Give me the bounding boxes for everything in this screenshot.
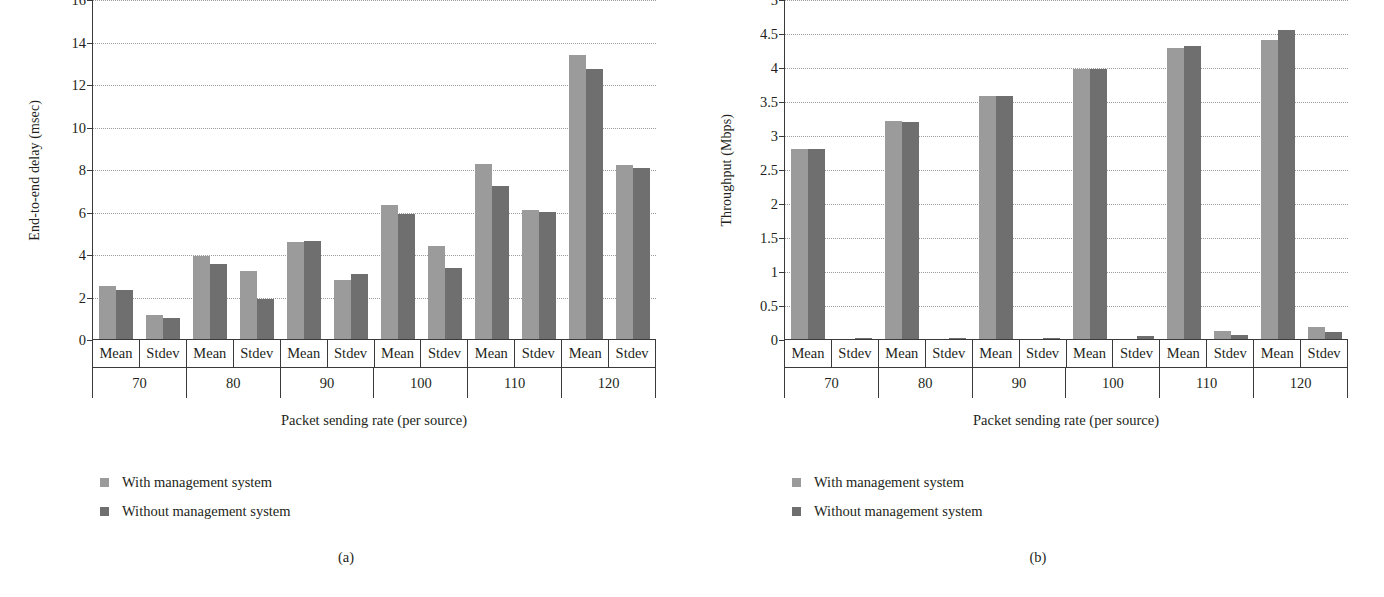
bar-group xyxy=(1254,0,1348,339)
y-tick-label: 2 xyxy=(771,196,778,213)
bar-subgroup xyxy=(421,0,468,339)
x-subcategory-label: Stdev xyxy=(234,340,281,367)
bar-subgroup xyxy=(1066,0,1113,339)
plot-area-a xyxy=(92,0,656,340)
x-group-label: 70 xyxy=(92,368,187,398)
x-subcategory-label: Mean xyxy=(973,340,1020,367)
bar-subgroup xyxy=(785,0,832,339)
x-subcategory-label: Mean xyxy=(187,340,234,367)
panel-b: Throughput (Mbps) 00.511.522.533.544.55 … xyxy=(692,0,1384,597)
bar-group xyxy=(187,0,281,339)
x-subcategory-label: Stdev xyxy=(421,340,468,367)
bar xyxy=(633,168,650,339)
bar xyxy=(163,318,180,339)
bar xyxy=(586,69,603,339)
x-group-label: 100 xyxy=(1066,368,1160,398)
bar xyxy=(381,205,398,339)
bar xyxy=(539,212,556,340)
y-tick-mark xyxy=(87,0,93,1)
x-group-label: 120 xyxy=(562,368,656,398)
y-tick-label: 2 xyxy=(79,289,86,306)
x-subcategory-label: Mean xyxy=(468,340,515,367)
y-axis-ticks-a: 0246810121416 xyxy=(46,0,92,340)
bar-subgroup xyxy=(609,0,656,339)
legend-item: Without management system xyxy=(792,503,983,520)
y-tick-mark xyxy=(779,306,785,307)
legend-label: Without management system xyxy=(122,503,291,520)
bars-b xyxy=(785,0,1348,339)
y-tick-mark xyxy=(87,298,93,299)
bar-subgroup xyxy=(468,0,515,339)
bar-group xyxy=(281,0,375,339)
bar xyxy=(902,122,919,339)
bar xyxy=(445,268,462,339)
y-tick-mark xyxy=(87,43,93,44)
legend-item: With management system xyxy=(100,474,291,491)
y-tick-mark xyxy=(779,238,785,239)
x-group-label: 100 xyxy=(374,368,468,398)
bar-subgroup xyxy=(140,0,187,339)
legend-swatch-icon xyxy=(792,478,801,487)
x-subcategory-label: Mean xyxy=(1160,340,1207,367)
y-axis-title-a: End-to-end delay (msec) xyxy=(24,0,46,340)
legend-swatch-icon xyxy=(100,507,109,516)
bar xyxy=(569,55,586,339)
x-subcategory-band-b: MeanStdevMeanStdevMeanStdevMeanStdevMean… xyxy=(784,340,1348,368)
bar xyxy=(210,264,227,339)
y-tick-label: 10 xyxy=(72,119,87,136)
bar xyxy=(616,165,633,339)
bar-subgroup xyxy=(1113,0,1160,339)
y-tick-label: 1 xyxy=(771,264,778,281)
caption-a: (a) xyxy=(0,549,692,566)
bars-a xyxy=(93,0,656,339)
y-tick-mark xyxy=(779,102,785,103)
y-tick-label: 1.5 xyxy=(760,230,778,247)
bar-subgroup xyxy=(879,0,926,339)
bar xyxy=(1214,331,1231,339)
y-tick-label: 4 xyxy=(79,247,86,264)
y-tick-label: 14 xyxy=(72,34,87,51)
x-subcategory-label: Stdev xyxy=(832,340,879,367)
bar-subgroup xyxy=(973,0,1020,339)
bar xyxy=(1090,69,1107,339)
bar xyxy=(996,96,1013,339)
x-group-label: 110 xyxy=(468,368,562,398)
bar xyxy=(492,186,509,339)
y-tick-label: 2.5 xyxy=(760,162,778,179)
y-tick-label: 0 xyxy=(771,332,778,349)
x-group-label: 110 xyxy=(1160,368,1254,398)
bar xyxy=(1231,335,1248,339)
y-tick-mark xyxy=(779,136,785,137)
x-subcategory-band-a: MeanStdevMeanStdevMeanStdevMeanStdevMean… xyxy=(92,340,656,368)
legend-label: With management system xyxy=(814,474,964,491)
legend-label: Without management system xyxy=(814,503,983,520)
x-group-label: 90 xyxy=(281,368,375,398)
y-tick-label: 6 xyxy=(79,204,86,221)
bar xyxy=(1137,336,1154,339)
bar-subgroup xyxy=(562,0,609,339)
y-tick-mark xyxy=(779,170,785,171)
bar-subgroup xyxy=(1160,0,1207,339)
x-subcategory-label: Mean xyxy=(281,340,328,367)
bar-group xyxy=(93,0,187,339)
x-subcategory-label: Stdev xyxy=(926,340,973,367)
y-tick-label: 8 xyxy=(79,162,86,179)
bar xyxy=(979,96,996,339)
bar-group xyxy=(973,0,1067,339)
y-tick-mark xyxy=(779,68,785,69)
y-tick-mark xyxy=(87,255,93,256)
y-tick-label: 4 xyxy=(771,60,778,77)
bar-subgroup xyxy=(281,0,328,339)
plot-a: End-to-end delay (msec) 0246810121416 Me… xyxy=(0,0,692,440)
bar xyxy=(949,338,966,339)
legend-label: With management system xyxy=(122,474,272,491)
bar xyxy=(240,271,257,339)
y-tick-label: 12 xyxy=(72,77,87,94)
figure-container: End-to-end delay (msec) 0246810121416 Me… xyxy=(0,0,1384,597)
caption-b: (b) xyxy=(692,549,1384,566)
bar-group xyxy=(1160,0,1254,339)
bar xyxy=(398,214,415,339)
bar-subgroup xyxy=(1020,0,1067,339)
x-subcategory-label: Mean xyxy=(879,340,926,367)
bar-subgroup xyxy=(515,0,562,339)
